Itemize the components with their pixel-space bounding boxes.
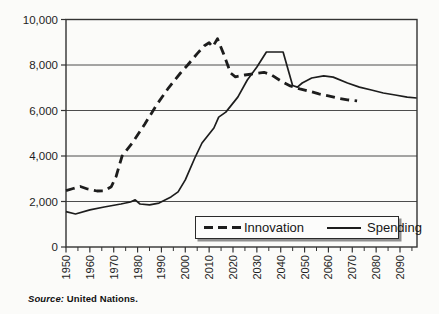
legend-label-innovation: Innovation (244, 220, 304, 235)
spending-solid-line-sample (327, 227, 361, 229)
legend: Innovation Spending (195, 216, 399, 239)
y-axis-label: 8,000 (29, 59, 58, 71)
source-note: Source: United Nations. (28, 293, 138, 304)
y-axis-label: 0 (52, 241, 58, 253)
legend-label-spending: Spending (367, 220, 422, 235)
y-axis-label: 4,000 (29, 150, 58, 162)
plot-area-border (66, 20, 417, 248)
source-value: United Nations. (64, 293, 138, 304)
x-axis-label: 1960 (84, 255, 96, 279)
chart-figure: 02,0004,0006,0008,00010,0001950196019701… (0, 0, 439, 314)
x-axis-label: 1950 (60, 255, 72, 279)
x-axis-label: 2050 (299, 255, 311, 279)
innovation-dashed-line-sample (204, 226, 241, 229)
spending-line (66, 52, 417, 214)
y-axis-label: 2,000 (29, 196, 58, 208)
x-axis-label: 1990 (155, 255, 167, 279)
line-chart: 02,0004,0006,0008,00010,0001950196019701… (0, 0, 439, 292)
x-axis-label: 2090 (394, 255, 406, 279)
x-axis-label: 1970 (108, 255, 120, 279)
y-axis-label: 10,000 (23, 14, 58, 26)
x-axis-label: 2010 (203, 255, 215, 279)
x-axis-label: 2070 (346, 255, 358, 279)
x-axis-label: 2060 (322, 255, 334, 279)
source-label: Source: (28, 293, 64, 304)
x-axis-label: 2040 (275, 255, 287, 279)
y-axis-label: 6,000 (29, 105, 58, 117)
x-axis-label: 2020 (227, 255, 239, 279)
x-axis-label: 2000 (179, 255, 191, 279)
x-axis-label: 2030 (251, 255, 263, 279)
innovation-line (66, 39, 357, 191)
x-axis-label: 1980 (132, 255, 144, 279)
x-axis-label: 2080 (370, 255, 382, 279)
